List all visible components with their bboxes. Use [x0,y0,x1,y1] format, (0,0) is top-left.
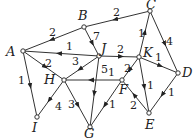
edge-weight-label: 1 [147,79,154,92]
edge-weight-label: 2 [124,62,131,75]
edge-weight-label: 2 [45,57,52,70]
node-label: A [5,44,15,59]
edge-weight-label: 3 [68,98,75,111]
edge-weight-label: 2 [113,6,120,19]
edge-weight-label: 4 [166,35,173,48]
edge-weight-label: 2 [130,99,137,112]
edge-weight-label: 4 [55,100,62,113]
edge-weight-label: 1 [18,74,25,87]
node-label: F [118,82,129,97]
edge-weight-label: 1 [138,27,145,40]
edge-J-H [64,56,99,80]
node-H [62,78,66,82]
edge-J-K [99,56,139,57]
edge-weight-label: 3 [72,55,79,68]
edge-weight-label: 5 [101,63,108,76]
node-B [82,25,86,29]
node-label: I [31,120,38,135]
node-label: G [84,126,94,139]
node-I [35,115,39,119]
node-label: E [144,117,155,132]
node-label: H [43,72,56,87]
node-E [147,111,151,115]
nodes-layer: ABCJKDHFIGE [5,0,193,139]
graph-diagram: 22121735214121121143 ABCJKDHFIGE [0,0,195,139]
node-label: C [146,0,156,12]
edge-weight-label: 1 [155,51,162,64]
node-D [176,71,180,75]
edge-weight-label: 1 [108,66,115,79]
edge-weight-label: 7 [93,30,100,43]
node-label: D [181,65,193,80]
edge-weight-label: 1 [109,98,116,111]
node-label: B [77,8,88,23]
node-A [21,49,25,53]
edge-A-I [23,51,37,117]
node-label: K [142,45,154,60]
edge-weight-label: 1 [66,40,73,53]
edge-weight-label: 2 [49,26,56,39]
edge-J-A [23,51,99,56]
edge-weight-label: 2 [117,43,124,56]
edge-weight-label: 1 [168,86,175,99]
node-K [137,55,141,59]
